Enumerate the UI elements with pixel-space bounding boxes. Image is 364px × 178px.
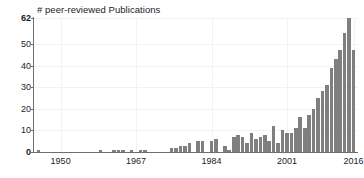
bar xyxy=(347,18,351,152)
y-tick-mark xyxy=(31,18,34,19)
bar xyxy=(334,59,338,152)
bar xyxy=(241,137,245,152)
bar xyxy=(303,128,307,152)
bar xyxy=(267,141,271,152)
y-tick-mark xyxy=(31,130,34,131)
bar xyxy=(139,150,143,152)
bar xyxy=(307,115,311,152)
bar xyxy=(188,143,192,152)
bar xyxy=(290,133,294,152)
bar xyxy=(121,150,125,152)
bar xyxy=(263,135,267,152)
bar xyxy=(276,143,280,152)
y-tick-mark xyxy=(31,44,34,45)
y-tick-mark xyxy=(31,109,34,110)
x-tick-label: 2001 xyxy=(277,156,297,166)
bar xyxy=(37,150,41,152)
bar xyxy=(298,117,302,152)
bar xyxy=(250,133,254,152)
y-tick-mark xyxy=(31,66,34,67)
bar xyxy=(338,50,342,152)
bar xyxy=(352,50,356,152)
bar xyxy=(174,148,178,152)
bar xyxy=(143,150,147,152)
bar xyxy=(183,146,187,152)
x-axis-line xyxy=(33,152,358,153)
bar xyxy=(214,139,218,152)
bar xyxy=(236,135,240,152)
y-tick-label: 30 xyxy=(3,82,31,92)
bar xyxy=(196,141,200,152)
bar xyxy=(99,150,103,152)
bar xyxy=(210,141,214,152)
bar xyxy=(259,137,263,152)
chart-title: # peer-reviewed Publications xyxy=(37,4,160,15)
bar xyxy=(294,128,298,152)
x-axis-tick-labels: 19501967198420012016 xyxy=(0,156,361,172)
bar xyxy=(232,137,236,152)
bar xyxy=(117,150,121,152)
bar xyxy=(254,139,258,152)
x-tick-label: 1984 xyxy=(202,156,222,166)
y-tick-label: 20 xyxy=(3,104,31,114)
bar xyxy=(312,109,316,152)
y-tick-label: 40 xyxy=(3,61,31,71)
y-tick-label: 10 xyxy=(3,125,31,135)
plot-area xyxy=(34,18,358,152)
bar xyxy=(170,148,174,152)
bar-series xyxy=(34,18,358,152)
bar xyxy=(343,33,347,152)
bar xyxy=(179,146,183,152)
bar xyxy=(201,141,205,152)
bar xyxy=(281,130,285,152)
bar xyxy=(227,150,231,152)
bar xyxy=(285,133,289,152)
bar xyxy=(245,143,249,152)
bar xyxy=(272,126,276,152)
bar xyxy=(321,91,325,152)
y-axis-tick-labels: 6250403020100 xyxy=(0,0,31,178)
bar xyxy=(316,98,320,152)
bar xyxy=(112,150,116,152)
y-tick-label: 50 xyxy=(3,39,31,49)
x-tick-label: 2016 xyxy=(344,156,364,166)
bar xyxy=(223,146,227,152)
bar xyxy=(325,85,329,152)
y-tick-mark xyxy=(31,152,34,153)
bar xyxy=(130,150,134,152)
bar xyxy=(330,68,334,152)
x-tick-label: 1967 xyxy=(126,156,146,166)
x-tick-label: 1950 xyxy=(51,156,71,166)
y-tick-mark xyxy=(31,87,34,88)
y-tick-label: 62 xyxy=(3,13,31,23)
